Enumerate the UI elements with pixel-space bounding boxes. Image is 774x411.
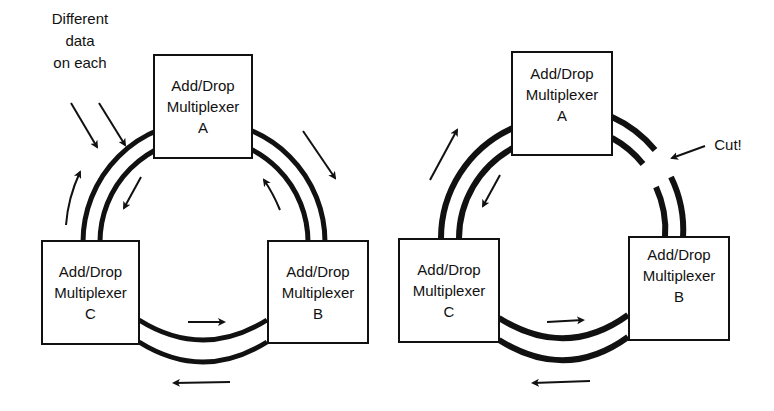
node-line1: Add/Drop [286, 261, 349, 282]
node-line2: Multiplexer [167, 96, 240, 117]
node-line1: Add/Drop [530, 63, 593, 84]
node-line2: Multiplexer [282, 282, 355, 303]
node-line2: Multiplexer [643, 265, 716, 286]
annotation-different-data: Different data on each [40, 8, 120, 74]
annotation-cut: Cut! [708, 134, 748, 156]
node-id: B [313, 303, 323, 324]
right-node-b: Add/Drop Multiplexer B [628, 236, 730, 341]
node-id: C [444, 301, 455, 322]
right-node-a: Add/Drop Multiplexer A [511, 51, 613, 156]
direction-arrow-up-left [66, 172, 80, 225]
left-outer-fiber-lower [139, 342, 267, 362]
annotation-line-3: on each [40, 52, 120, 74]
right-inner-fiber-lower [499, 315, 628, 338]
node-line2: Multiplexer [413, 280, 486, 301]
left-node-b: Add/Drop Multiplexer B [267, 240, 369, 344]
node-line1: Add/Drop [59, 261, 122, 282]
node-id: A [557, 105, 567, 126]
direction-arrow-down-left [124, 177, 141, 208]
right-inner-fiber-a-side [612, 138, 643, 164]
node-line1: Add/Drop [417, 259, 480, 280]
pointer-arrow-outer [71, 103, 97, 147]
node-line1: Add/Drop [171, 75, 234, 96]
right-outer-fiber-b-side [671, 177, 683, 238]
cut-pointer-arrow [672, 146, 705, 158]
right-node-c: Add/Drop Multiplexer C [398, 238, 500, 343]
direction-arrow-left-bottom [533, 381, 590, 383]
direction-arrow-left-bottom [174, 382, 230, 383]
node-line2: Multiplexer [54, 282, 127, 303]
pointer-arrow-inner [99, 103, 125, 145]
cut-label: Cut! [714, 136, 742, 153]
node-id: B [674, 286, 684, 307]
node-line2: Multiplexer [526, 84, 599, 105]
direction-arrow-down-right [303, 131, 335, 178]
node-id: C [85, 303, 96, 324]
direction-arrow-right-bottom [547, 320, 583, 322]
node-line1: Add/Drop [647, 244, 710, 265]
direction-arrow-up-left [430, 130, 457, 180]
direction-arrow-up-right [264, 180, 280, 210]
annotation-line-2: data [40, 30, 120, 52]
left-node-a: Add/Drop Multiplexer A [153, 54, 253, 159]
node-id: A [198, 117, 208, 138]
left-node-c: Add/Drop Multiplexer C [41, 240, 140, 345]
right-inner-fiber-b-side [656, 187, 665, 238]
direction-arrow-down-left [483, 175, 500, 206]
annotation-line-1: Different [40, 8, 120, 30]
